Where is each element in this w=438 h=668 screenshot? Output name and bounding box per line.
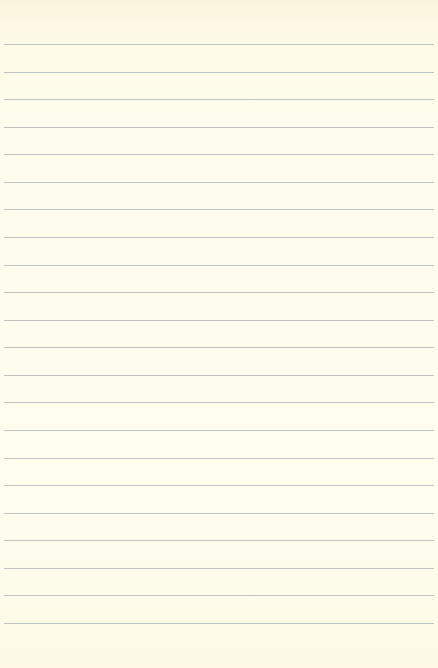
ruled-line [4, 568, 434, 569]
ruled-line [4, 485, 434, 486]
ruled-line [4, 458, 434, 459]
ruled-line [4, 265, 434, 266]
ruled-line [4, 540, 434, 541]
ruled-line [4, 402, 434, 403]
ruled-line [4, 623, 434, 624]
ruled-line [4, 237, 434, 238]
ruled-line [4, 44, 434, 45]
ruled-line [4, 127, 434, 128]
ruled-line [4, 182, 434, 183]
ruled-line [4, 430, 434, 431]
ruled-line [4, 595, 434, 596]
lined-paper [0, 0, 438, 668]
ruled-line [4, 347, 434, 348]
ruled-line [4, 292, 434, 293]
ruled-line [4, 99, 434, 100]
ruled-line [4, 72, 434, 73]
ruled-line [4, 320, 434, 321]
ruled-line [4, 513, 434, 514]
ruled-line [4, 154, 434, 155]
ruled-line [4, 375, 434, 376]
ruled-line [4, 209, 434, 210]
